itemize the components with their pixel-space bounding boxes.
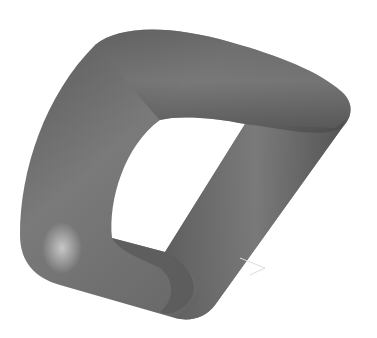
squarish-torus-shape bbox=[0, 0, 377, 338]
render-scene bbox=[0, 0, 377, 338]
specular-highlight bbox=[42, 222, 82, 274]
